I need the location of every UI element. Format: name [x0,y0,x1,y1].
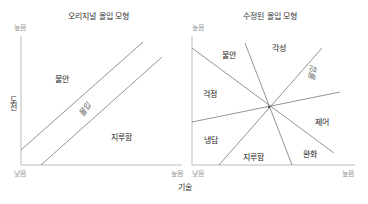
left-x-high-tick: 높음 [171,171,183,178]
left-flow-channel [21,42,162,165]
left-y-high-tick: 높음 [14,25,26,32]
sector-line-2 [245,43,292,165]
x-axis-label: 기술 [178,184,192,192]
left-region-boredom: 지루함 [111,134,132,142]
center-point [268,106,270,108]
right-region-anxiety: 불안 [222,52,236,60]
right-region-relaxation: 완화 [303,151,317,159]
right-region-boredom: 지루함 [243,154,264,162]
right-title: 수정된 몰입 모형 [243,13,297,21]
right-x-high-tick: 높음 [342,171,354,178]
left-x-low-tick: 낮음 [14,171,26,178]
right-y-high-tick: 높음 [192,25,204,32]
right-x-low-tick: 낮음 [192,171,204,178]
right-axes [192,36,355,165]
left-y-axis-label: 도전 [8,96,16,110]
right-region-apathy: 냉담 [204,137,218,145]
right-sector-lines [192,43,340,165]
right-region-control: 제어 [315,119,329,127]
right-region-worry: 걱정 [203,91,217,99]
left-title: 오리지널 몰입 모형 [68,13,129,21]
diagram-canvas [0,0,368,204]
right-region-arousal: 각성 [272,45,286,53]
left-lower-boundary [41,57,162,165]
sector-line-3 [219,48,322,165]
left-region-anxiety: 불안 [55,76,69,84]
left-axes [21,36,182,165]
